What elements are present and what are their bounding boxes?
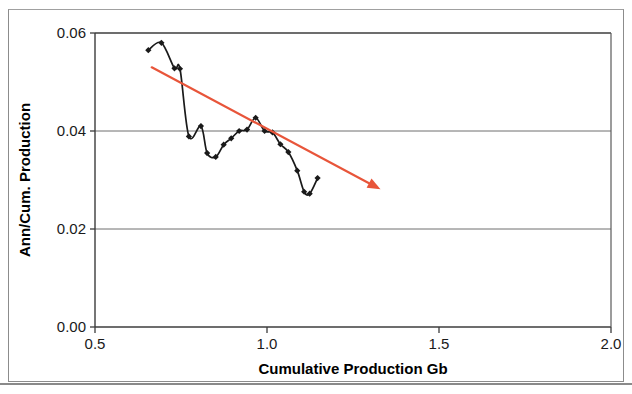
y-axis-tick-label: 0.00 xyxy=(57,318,86,335)
line-chart: 0.000.020.040.06 0.51.01.52.0 Cumulative… xyxy=(0,0,632,394)
x-axis-tick-labels: 0.51.01.52.0 xyxy=(85,335,622,352)
y-axis-ticks xyxy=(90,33,95,327)
y-axis-tick-label: 0.02 xyxy=(57,220,86,237)
x-axis-tick-label: 2.0 xyxy=(601,335,622,352)
y-axis-tick-label: 0.04 xyxy=(57,122,86,139)
x-axis-ticks xyxy=(95,327,611,333)
y-axis-tick-labels: 0.000.020.040.06 xyxy=(57,24,86,335)
x-axis-tick-label: 1.0 xyxy=(257,335,278,352)
y-axis-title: Ann/Cum. Production xyxy=(16,103,33,257)
y-axis-tick-label: 0.06 xyxy=(57,24,86,41)
chart-page: 0.000.020.040.06 0.51.01.52.0 Cumulative… xyxy=(0,0,632,394)
x-axis-title: Cumulative Production Gb xyxy=(258,360,447,377)
x-axis-tick-label: 1.5 xyxy=(429,335,450,352)
x-axis-tick-label: 0.5 xyxy=(85,335,106,352)
